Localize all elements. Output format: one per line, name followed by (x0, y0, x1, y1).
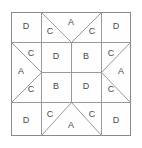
patch-label-top-left-corner: D (23, 21, 30, 31)
patch-label-right-middle-center: A (118, 66, 124, 76)
patch-label-top-middle-center: A (68, 17, 74, 27)
quilt-block-canvas: D C A C D C A C D B B D C A C D C A C D (0, 0, 142, 148)
patch-label-bottom-middle-left: C (47, 109, 54, 119)
patch-label-left-middle-top: C (28, 48, 35, 58)
patch-label-center-top-left: D (53, 51, 60, 61)
patch-label-right-middle-top: C (108, 48, 115, 58)
patch-label-center-bottom-left: B (53, 81, 59, 91)
patch-label-bottom-middle-right: C (89, 109, 96, 119)
patch-label-bottom-left-corner: D (23, 115, 30, 125)
patch-label-top-middle-right: C (89, 26, 96, 36)
patch-label-right-middle-bottom: C (108, 84, 115, 94)
quilt-block-diagram: D C A C D C A C D B B D C A C D C A C D (0, 0, 142, 148)
patch-label-center-top-right: B (83, 51, 89, 61)
patch-label-bottom-right-corner: D (113, 115, 120, 125)
patch-label-left-middle-bottom: C (28, 84, 35, 94)
patch-label-left-middle-center: A (18, 66, 24, 76)
patch-label-bottom-middle-center: A (68, 120, 74, 130)
patch-label-center-bottom-right: D (83, 81, 90, 91)
patch-label-top-middle-left: C (47, 26, 54, 36)
patch-label-top-right-corner: D (113, 21, 120, 31)
